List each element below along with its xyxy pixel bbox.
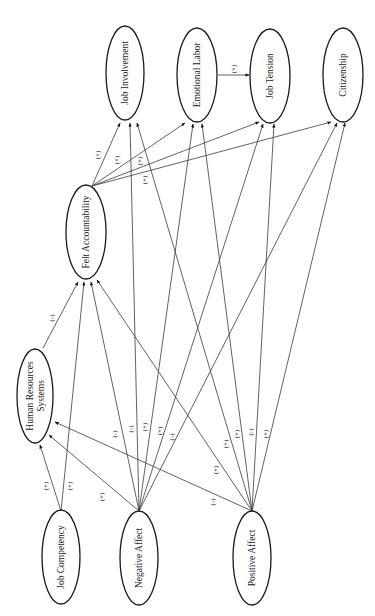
edge-negative-affect-to-job-involvement [130,123,139,511]
node-label: Citizenship [338,53,348,97]
path-diagram: (+) (+) (+) (+) (+) (-) (+) (+) (+) (-) … [0,0,375,616]
sign-na-job-tension: (+) [156,426,164,435]
edge-felt-accountability-to-citizenship [92,122,331,186]
edge-job-competency-to-hr-systems [40,445,61,511]
node-citizenship: Citizenship [323,28,363,122]
node-label: Job Tension [265,53,275,99]
sign-emotional-labor-job-tension: (+) [230,64,238,73]
sign-pa-job-involvement: (+) [222,439,230,448]
edge-positive-affect-to-citizenship [252,123,345,511]
sign-pa-hr: (-) [209,498,217,506]
edge-job-competency-to-felt-accountability [61,282,84,511]
node-emotional-labor: Emotional Labor [177,28,217,122]
sign-fa-job-tension: (+) [136,156,144,165]
edge-negative-affect-to-citizenship [139,123,337,511]
edge-felt-accountability-to-job-tension [92,122,259,186]
sign-pa-felt-accountability: (+) [212,465,220,474]
sign-hr-felt-accountability: (-) [48,314,56,322]
sign-na-felt-accountability: (-) [111,430,119,438]
sign-na-emotional-labor: (+) [141,422,149,431]
node-hr-systems: Human Resources Systems [17,349,53,443]
sign-pa-emotional-labor: (+) [233,429,241,438]
node-label-line1: Human Resources [25,361,35,431]
node-label: Negative Affect [134,528,144,589]
node-label: Positive Affect [247,529,257,586]
sign-fa-emotional-labor: (+) [113,155,121,164]
node-label: Job Involvement [120,41,130,105]
node-positive-affect: Positive Affect [233,511,271,605]
node-label: Emotional Labor [192,42,202,107]
sign-na-job-involvement: (-) [127,425,135,433]
node-job-tension: Job Tension [250,29,290,123]
sign-na-hr: (+) [98,492,106,501]
edges [40,75,345,511]
node-label: Felt Accountability [81,195,91,268]
edge-positive-affect-to-job-tension [252,124,274,511]
node-job-competency: Job Competency [42,510,80,604]
node-negative-affect: Negative Affect [120,511,158,605]
node-label-line2: Systems [36,380,46,412]
node-label: Job Competency [56,525,66,589]
sign-pa-job-tension: (-) [247,428,255,436]
node-job-involvement: Job Involvement [106,26,144,120]
sign-fa-job-involvement: (+) [94,150,102,159]
sign-fa-citizenship: (+) [141,175,149,184]
edge-positive-affect-to-job-involvement [137,123,252,511]
sign-jc-hr: (+) [42,481,50,490]
sign-pa-citizenship: (+) [262,429,270,438]
sign-na-citizenship: (-) [168,433,176,441]
sign-jc-felt-accountability: (+) [66,481,74,490]
node-felt-accountability: Felt Accountability [66,185,106,279]
